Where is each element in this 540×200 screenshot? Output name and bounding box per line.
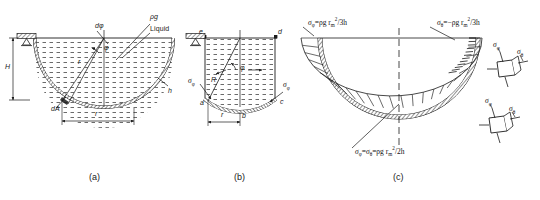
formula-bottom-rest: =ρg r: [372, 147, 388, 156]
stress-element-upper-arrow-phi-up: [500, 52, 503, 62]
formula-right-rest: =−ρg r: [443, 18, 463, 27]
panel-caption-c: (c): [393, 172, 404, 182]
panel-b-rim-tick-right: [274, 35, 277, 38]
label-dphi: dφ: [95, 22, 104, 29]
label-rho-g: ρg: [150, 13, 158, 20]
stress-element-lower-arrow-phi-up: [492, 108, 495, 118]
label-sigma-phi-left-b: σφ: [188, 76, 195, 87]
formula-sigma-theta-top-right: σθ=−ρg rm2/3h: [437, 16, 480, 28]
label-point-d: d: [278, 28, 282, 35]
label-point-c: c: [280, 98, 284, 105]
sigma-sub-eu-phi: φ: [497, 45, 500, 51]
label-r-inner-a: r: [78, 58, 80, 65]
panel-a-support-pin: [23, 39, 31, 46]
label-r-dim-b: r: [221, 111, 223, 118]
label-dA: dA: [51, 105, 60, 112]
label-phi-a: φ: [104, 44, 109, 51]
stress-element-lower-arrow-phi-down: [497, 133, 500, 143]
panel-c-formula-bottom-leader: [352, 104, 399, 148]
label-r-dim-a: r: [95, 110, 97, 117]
label-R: R: [211, 76, 216, 83]
stress-element-upper-arrow-phi-down: [505, 77, 508, 87]
sigma-sub-eu-theta: θ: [521, 52, 524, 58]
label-sigma-phi-elem-upper: σφ: [493, 40, 500, 51]
panel-c-stress-envelope: [301, 38, 482, 96]
panel-caption-b: (b): [234, 172, 245, 182]
formula-right-tail: /3h: [470, 18, 480, 27]
stress-element-lower-face: [489, 116, 507, 133]
label-sigma-phi-elem-lower: σφ: [485, 96, 492, 107]
panel-b: [186, 30, 283, 126]
label-H: H: [5, 63, 10, 70]
label-h: h: [168, 87, 172, 94]
diagram-svg: [0, 0, 540, 200]
formula-bottom-rm-sub: m: [388, 151, 392, 157]
formula-sigma-bottom: σφ=σθ=ρg rm2/2h: [355, 145, 404, 157]
panel-a: [9, 24, 175, 128]
panel-b-support-pin: [192, 39, 200, 46]
sigma-sub-el-theta: θ: [513, 109, 516, 115]
sigma-sub-b-right: φ: [287, 85, 290, 91]
sigma-sub-el-phi: φ: [489, 101, 492, 107]
formula-left-tail: /3h: [337, 18, 347, 27]
formula-bottom-tail: /2h: [395, 147, 405, 156]
panel-caption-a: (a): [89, 172, 100, 182]
panel-c-formula-left-leader: [303, 27, 314, 36]
figure-canvas: dφ ρg Liquid H r φ dA r h e d R φ a b c …: [0, 0, 540, 200]
label-sigma-theta-elem-upper: σθ: [517, 47, 523, 58]
label-point-e: e: [199, 28, 203, 35]
formula-right-rm-sub: m: [464, 22, 468, 28]
label-phi-b: φ: [240, 64, 245, 71]
stress-element-upper-face: [497, 60, 515, 77]
formula-left-rm-sub: m: [331, 22, 335, 28]
sigma-sub-b-left: φ: [192, 81, 195, 87]
label-point-a: a: [200, 99, 204, 106]
label-liquid: Liquid: [150, 25, 169, 32]
label-sigma-phi-right-b: σφ: [283, 80, 290, 91]
label-point-b: b: [242, 112, 246, 119]
formula-left-rest: =ρg r: [315, 18, 331, 27]
formula-sigma-phi-top-left: σφ=ρg rm2/3h: [308, 16, 347, 28]
label-sigma-theta-elem-lower: σθ: [509, 104, 515, 115]
